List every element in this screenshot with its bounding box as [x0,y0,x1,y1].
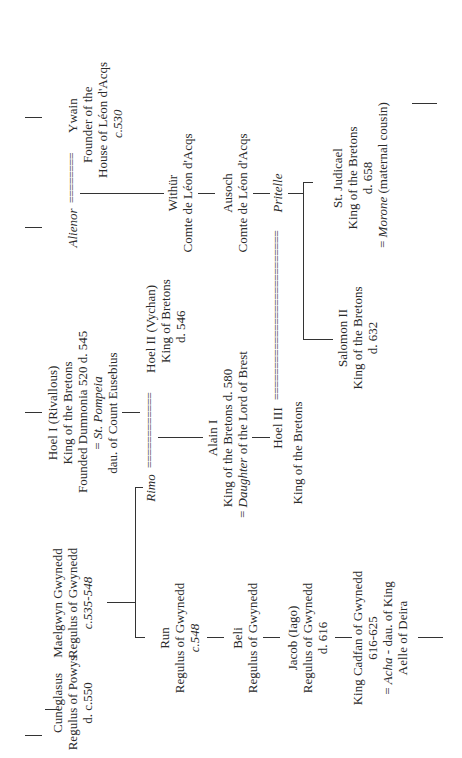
line-cadfan-descendants [418,637,443,638]
person-run: Run Regulus of Gwynedd c.548 [157,578,202,698]
person-ywain: Ywain Founder of the House of Léon d'Acq… [65,0,125,133]
person-hoel3: Hoel III [270,398,285,458]
person-beli: Beli Regulus of Gwynedd [230,578,260,698]
descent-line-hoel1 [25,412,42,413]
person-ausoch: Ausoch Comte de Léon d'Acqs [220,123,250,263]
line-maelgwyn-children [107,602,135,603]
descent-line-alienor [25,227,42,228]
person-hoel3-title: King of the Bretons [290,388,305,518]
line-to-judicael [303,182,313,183]
line-to-salomon [303,339,333,340]
line-to-rimo [135,487,143,488]
person-alienor: Alienor [65,203,80,253]
marriage-rimo-hoel2: ============ [143,393,158,468]
line-withur-ausoch [198,193,215,194]
person-maelgwyn: Maelgwyn Gwynedd Regulus of Gwynedd c.53… [50,538,95,668]
person-alain1: Alain I King of the Bretons d. 580 = Dau… [205,358,250,518]
descent-line-cuneglasus [25,735,42,736]
line-beli-jacob [263,637,280,638]
person-pritelle: Pritelle [270,168,285,218]
line-alain-hoel3 [252,437,270,438]
branch-salomon-judicael [303,182,304,340]
person-hoel1: Hoel I (Rivallous) King of the Bretons F… [45,333,120,493]
person-judicael: St. Judicael King of the Bretons d. 658 … [330,108,390,248]
person-rimo-label: Rimo [143,468,158,508]
marriage-alienor-ywain: ======== [65,153,80,203]
branch-run-rimo [135,488,136,638]
marriage-hoel3-pritelle: =========================== [270,231,285,400]
descent-line-maelgwyn [45,709,59,710]
person-salomon2: Salomon II King of the Bretons d. 632 [335,273,380,403]
family-tree-diagram: Cuneglasus Regulus of Powys d. c.550 Mae… [0,0,462,758]
line-to-run [135,637,145,638]
line-ywain-withur [80,193,163,194]
person-hoel2: Hoel II (Vychan) King of Bretons d. 546 [143,253,188,373]
person-jacob: Jacob (Iago) Regulus of Gwynedd d. 616 [285,578,330,698]
line-rimo-alain [158,437,203,438]
descent-line-ywain [25,117,42,118]
line-pritelle-children [288,193,303,194]
line-ausoch-pritelle [253,193,270,194]
person-withur: Withür Comte de Léon d'Acqs [165,123,195,263]
line-hoel1-hoel2 [122,412,140,413]
person-cadfan: King Cadfan of Gwynedd 616-625 = Acha - … [350,568,410,708]
line-judicael-descendants [412,103,437,104]
line-run-beli [207,637,224,638]
